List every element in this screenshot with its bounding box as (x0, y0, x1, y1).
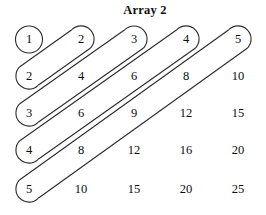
cell-r1c4: 4 (166, 33, 206, 46)
cell-r5c2: 10 (61, 183, 101, 196)
cell-r5c5: 25 (218, 183, 258, 196)
cell-r2c1: 2 (9, 70, 49, 83)
cell-r3c4: 12 (166, 107, 206, 120)
cell-r5c3: 15 (114, 183, 154, 196)
cell-r2c4: 8 (166, 70, 206, 83)
cell-r1c5: 5 (218, 33, 258, 46)
cell-r3c2: 6 (61, 107, 101, 120)
cell-r4c1: 4 (9, 144, 49, 157)
cell-r4c4: 16 (166, 144, 206, 157)
cell-r3c5: 15 (218, 107, 258, 120)
cell-r5c4: 20 (166, 183, 206, 196)
cell-r1c2: 2 (61, 33, 101, 46)
cell-r1c3: 3 (114, 33, 154, 46)
cell-r4c5: 20 (218, 144, 258, 157)
cell-r3c1: 3 (9, 107, 49, 120)
cell-r1c1: 1 (9, 33, 49, 46)
cell-r2c5: 10 (218, 70, 258, 83)
array-2-figure: Array 2 (0, 0, 266, 215)
number-grid: 1 2 3 4 5 2 4 6 8 10 3 6 9 12 15 4 8 12 … (0, 0, 266, 215)
cell-r2c3: 6 (114, 70, 154, 83)
cell-r5c1: 5 (9, 183, 49, 196)
cell-r3c3: 9 (114, 107, 154, 120)
cell-r2c2: 4 (61, 70, 101, 83)
cell-r4c3: 12 (114, 144, 154, 157)
cell-r4c2: 8 (61, 144, 101, 157)
